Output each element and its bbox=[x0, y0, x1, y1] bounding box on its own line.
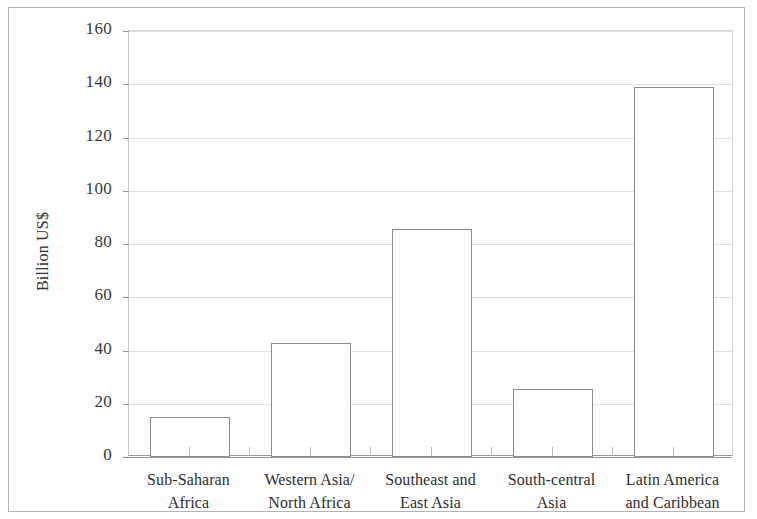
category-label-line: South-central bbox=[508, 471, 596, 488]
gridline bbox=[129, 457, 732, 458]
category-label-line: North Africa bbox=[249, 491, 370, 514]
bar bbox=[634, 87, 714, 457]
plot-area bbox=[128, 30, 733, 456]
y-tick-mark bbox=[123, 191, 129, 192]
x-tick-mark bbox=[370, 447, 371, 456]
y-tick-mark bbox=[123, 297, 129, 298]
category-label-line: and Caribbean bbox=[612, 491, 733, 514]
y-axis-title: Billion US$ bbox=[34, 212, 52, 291]
x-tick-mark bbox=[249, 447, 250, 456]
x-tick-mark bbox=[552, 447, 553, 456]
x-tick-mark bbox=[491, 447, 492, 456]
category-label-line: East Asia bbox=[370, 491, 491, 514]
category-label-line: Asia bbox=[491, 491, 612, 514]
x-tick-mark bbox=[612, 447, 613, 456]
category-label-line: Latin America bbox=[626, 471, 719, 488]
bar bbox=[271, 343, 351, 457]
category-label: Sub-SaharanAfrica bbox=[128, 468, 249, 514]
category-label-line: Western Asia/ bbox=[264, 471, 354, 488]
y-tick-mark bbox=[123, 244, 129, 245]
y-tick-mark bbox=[123, 31, 129, 32]
x-axis-ticks bbox=[128, 456, 733, 457]
category-label: Latin Americaand Caribbean bbox=[612, 468, 733, 514]
category-label: South-centralAsia bbox=[491, 468, 612, 514]
category-label-line: Africa bbox=[128, 491, 249, 514]
bar bbox=[513, 389, 593, 457]
x-tick-mark bbox=[189, 447, 190, 456]
chart-figure: 020406080100120140160 Billion US$ Sub-Sa… bbox=[0, 0, 757, 519]
category-label: Western Asia/North Africa bbox=[249, 468, 370, 514]
category-label: Southeast andEast Asia bbox=[370, 468, 491, 514]
gridline bbox=[129, 84, 732, 85]
x-tick-mark bbox=[310, 447, 311, 456]
bar bbox=[150, 417, 230, 457]
y-tick-mark bbox=[123, 138, 129, 139]
category-label-line: Sub-Saharan bbox=[147, 471, 230, 488]
bar bbox=[392, 229, 472, 457]
x-tick-mark bbox=[431, 447, 432, 456]
y-tick-mark bbox=[123, 457, 129, 458]
category-label-line: Southeast and bbox=[385, 471, 476, 488]
y-tick-mark bbox=[123, 351, 129, 352]
y-tick-mark bbox=[123, 404, 129, 405]
gridline bbox=[129, 31, 732, 32]
x-tick-mark bbox=[673, 447, 674, 456]
y-tick-mark bbox=[123, 84, 129, 85]
